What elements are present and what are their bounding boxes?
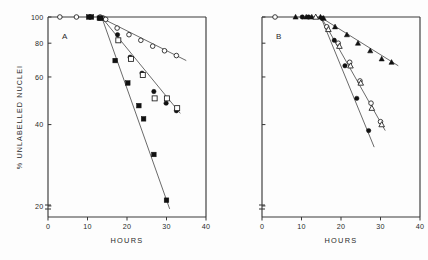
data-point-filled-circle <box>320 16 324 20</box>
data-point-filled-circle <box>355 96 359 100</box>
data-point-filled-square <box>141 117 146 122</box>
data-point-open-circle <box>115 26 120 31</box>
x-tick-label: 0 <box>260 222 264 231</box>
data-point-open-square <box>164 96 169 101</box>
x-axis-label: HOURS <box>324 236 357 245</box>
data-point-filled-square <box>137 103 142 108</box>
figure-root: 20406080100010203040HOURS% UNLABELLED NU… <box>0 0 428 260</box>
data-point-open-square <box>152 96 157 101</box>
data-point-filled-triangle <box>368 48 373 53</box>
series-filled-square <box>89 15 169 203</box>
x-tick-label: 40 <box>416 222 424 231</box>
data-point-filled-triangle <box>355 40 360 45</box>
data-point-filled-circle <box>300 15 304 19</box>
panel-label-B: B <box>276 32 282 41</box>
x-tick-label: 10 <box>297 222 305 231</box>
data-point-filled-circle <box>164 101 168 105</box>
data-point-filled-circle <box>332 38 336 42</box>
series-filled-circle <box>300 15 371 133</box>
data-point-open-circle <box>74 15 79 20</box>
fit-line-filled-circle <box>321 18 374 147</box>
data-point-open-square <box>128 56 133 61</box>
data-point-open-triangle <box>369 105 375 110</box>
data-point-filled-square <box>89 15 94 20</box>
y-tick-label: 60 <box>35 73 43 82</box>
data-point-open-circle <box>150 44 155 49</box>
data-point-filled-circle <box>152 89 156 93</box>
x-tick-label: 30 <box>162 222 170 231</box>
y-tick-label: 20 <box>35 202 43 211</box>
x-tick-label: 40 <box>202 222 210 231</box>
data-point-open-circle <box>58 15 63 20</box>
data-point-filled-square <box>125 81 130 86</box>
data-point-open-circle <box>103 17 108 22</box>
x-tick-label: 30 <box>376 222 384 231</box>
x-tick-label: 20 <box>337 222 345 231</box>
panel-label-A: A <box>62 32 68 41</box>
fit-line-open-circle-open-triangle <box>322 19 385 130</box>
y-tick-label: 100 <box>31 13 44 22</box>
series-open-circle-open-triangle <box>273 14 385 127</box>
data-point-open-square <box>140 73 145 78</box>
data-point-filled-square <box>152 152 157 157</box>
data-point-open-circle <box>369 101 374 106</box>
series-filled-circle-open-square <box>86 15 179 113</box>
chart-panel-b: 010203040HOURSB <box>214 0 428 260</box>
data-point-filled-circle <box>343 64 347 68</box>
data-point-filled-square <box>99 16 104 21</box>
data-point-filled-circle <box>306 15 310 19</box>
y-tick-label: 40 <box>35 120 43 129</box>
x-axis-label: HOURS <box>110 236 143 245</box>
data-point-open-square <box>175 106 180 111</box>
data-point-open-square <box>116 38 121 43</box>
data-point-open-circle <box>162 48 167 53</box>
chart-svg-B: 010203040HOURSB <box>214 0 428 260</box>
chart-panel-a: 20406080100010203040HOURS% UNLABELLED NU… <box>0 0 214 260</box>
x-tick-label: 10 <box>83 222 91 231</box>
data-point-filled-circle <box>366 128 370 132</box>
chart-svg-A: 20406080100010203040HOURS% UNLABELLED NU… <box>0 0 214 260</box>
data-point-filled-square <box>113 58 118 63</box>
y-axis-label: % UNLABELLED NUCLEI <box>15 65 24 169</box>
x-tick-label: 20 <box>123 222 131 231</box>
y-tick-label: 80 <box>35 39 43 48</box>
data-point-open-circle <box>174 53 179 58</box>
data-point-open-circle <box>127 32 132 37</box>
data-point-open-circle <box>273 15 278 20</box>
fit-line-filled-square <box>103 19 170 209</box>
data-point-open-circle <box>139 38 144 43</box>
data-point-filled-circle <box>115 33 119 37</box>
x-tick-label: 0 <box>46 222 50 231</box>
data-point-filled-square <box>164 198 169 203</box>
